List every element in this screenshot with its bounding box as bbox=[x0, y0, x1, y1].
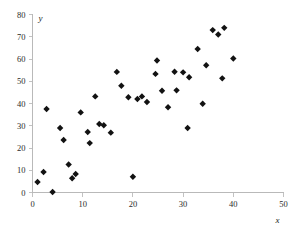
y-tick-label: 70 bbox=[17, 32, 26, 42]
x-tick-label: 0 bbox=[30, 199, 34, 209]
x-axis-title: x bbox=[275, 215, 280, 225]
y-tick-label: 40 bbox=[17, 99, 26, 109]
y-tick-label: 60 bbox=[17, 54, 26, 64]
chart-background bbox=[0, 0, 300, 233]
x-tick-label: 50 bbox=[279, 199, 288, 209]
x-tick-label: 30 bbox=[179, 199, 188, 209]
x-tick-label: 40 bbox=[229, 199, 238, 209]
y-tick-label: 30 bbox=[17, 121, 26, 131]
y-tick-label: 20 bbox=[17, 143, 26, 153]
scatter-plot-figure: 01020304050607080 01020304050 y x bbox=[0, 0, 300, 233]
x-tick-label: 20 bbox=[129, 199, 138, 209]
y-tick-label: 10 bbox=[17, 165, 26, 175]
y-tick-label: 80 bbox=[17, 10, 26, 20]
y-tick-label: 0 bbox=[21, 188, 25, 198]
y-axis-title: y bbox=[38, 13, 43, 23]
x-tick-label: 10 bbox=[78, 199, 87, 209]
y-tick-label: 50 bbox=[17, 76, 26, 86]
plot-canvas: 01020304050607080 01020304050 y x bbox=[0, 0, 300, 233]
